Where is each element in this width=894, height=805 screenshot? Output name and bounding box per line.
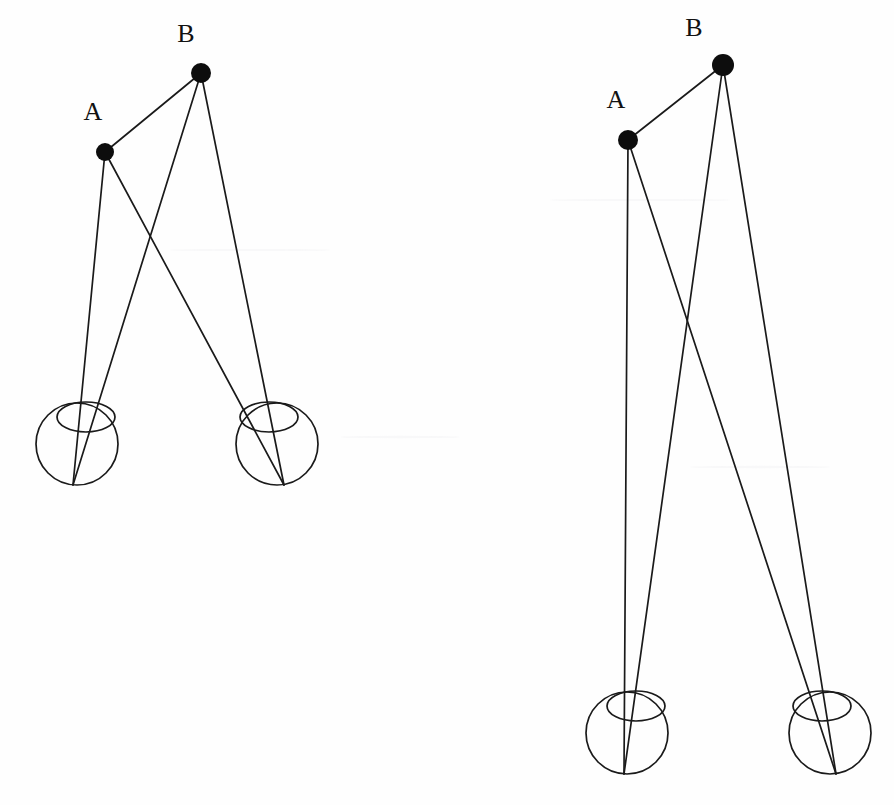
point-label-b: B	[685, 13, 702, 42]
point-label-b: B	[177, 19, 194, 48]
point-dot-a	[618, 130, 638, 150]
diagram-canvas: A B A B	[0, 0, 894, 805]
point-label-a: A	[607, 85, 626, 114]
figure-root: A B A B	[0, 0, 894, 805]
point-dot-a	[96, 143, 114, 161]
canvas-background	[0, 0, 894, 805]
point-dot-b	[712, 54, 734, 76]
point-dot-b	[191, 63, 211, 83]
point-label-a: A	[84, 97, 103, 126]
